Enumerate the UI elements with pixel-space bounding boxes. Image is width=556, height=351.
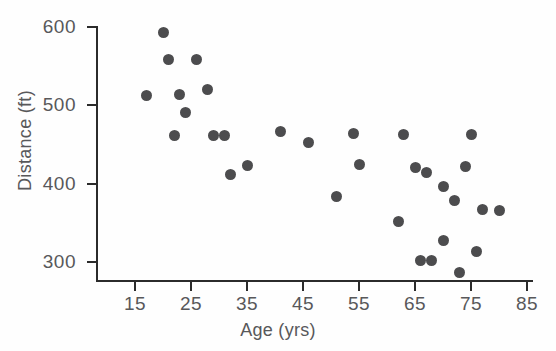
y-axis-label: Distance (ft) bbox=[15, 71, 36, 211]
x-axis-label: Age (yrs) bbox=[0, 320, 556, 341]
x-tick-label: 45 bbox=[280, 294, 326, 313]
data-point bbox=[191, 54, 202, 65]
x-axis-line bbox=[96, 280, 533, 282]
x-tick-mark bbox=[190, 282, 192, 291]
data-point bbox=[331, 191, 342, 202]
x-tick-mark bbox=[134, 282, 136, 291]
y-tick-mark bbox=[87, 261, 96, 263]
x-tick-mark bbox=[414, 282, 416, 291]
x-tick-label: 65 bbox=[392, 294, 438, 313]
data-point bbox=[163, 54, 174, 65]
data-point bbox=[449, 195, 460, 206]
data-point bbox=[169, 130, 180, 141]
data-point bbox=[180, 107, 191, 118]
data-point bbox=[393, 216, 404, 227]
x-tick-label: 75 bbox=[448, 294, 494, 313]
data-point bbox=[354, 159, 365, 170]
y-tick-mark bbox=[87, 26, 96, 28]
x-tick-label: 35 bbox=[224, 294, 270, 313]
x-tick-mark bbox=[470, 282, 472, 291]
y-tick-label: 400 bbox=[30, 174, 76, 193]
y-tick-label: 500 bbox=[30, 95, 76, 114]
data-point bbox=[426, 255, 437, 266]
y-tick-mark bbox=[87, 183, 96, 185]
data-point bbox=[219, 130, 230, 141]
data-point bbox=[466, 129, 477, 140]
data-point bbox=[398, 129, 409, 140]
scatter-plot-figure: 300400500600 1525354555657585 Age (yrs) … bbox=[0, 0, 556, 351]
data-point bbox=[421, 167, 432, 178]
data-point bbox=[348, 128, 359, 139]
data-point bbox=[494, 205, 505, 216]
data-point bbox=[438, 181, 449, 192]
data-point bbox=[225, 169, 236, 180]
data-point bbox=[208, 130, 219, 141]
data-point bbox=[202, 84, 213, 95]
y-tick-label: 300 bbox=[30, 252, 76, 271]
data-point bbox=[275, 126, 286, 137]
y-axis-line bbox=[96, 26, 98, 282]
x-tick-mark bbox=[526, 282, 528, 291]
y-tick-label: 600 bbox=[30, 17, 76, 36]
data-point bbox=[460, 161, 471, 172]
x-tick-mark bbox=[358, 282, 360, 291]
y-tick-mark bbox=[87, 104, 96, 106]
x-tick-mark bbox=[302, 282, 304, 291]
x-tick-label: 85 bbox=[504, 294, 550, 313]
data-point bbox=[477, 204, 488, 215]
x-tick-label: 25 bbox=[168, 294, 214, 313]
x-tick-mark bbox=[246, 282, 248, 291]
x-tick-label: 55 bbox=[336, 294, 382, 313]
data-point bbox=[303, 137, 314, 148]
data-point bbox=[438, 235, 449, 246]
x-tick-label: 15 bbox=[112, 294, 158, 313]
data-point bbox=[141, 90, 152, 101]
data-point bbox=[174, 89, 185, 100]
data-point bbox=[410, 162, 421, 173]
data-point bbox=[471, 246, 482, 257]
data-point bbox=[454, 267, 465, 278]
data-point bbox=[242, 160, 253, 171]
data-point bbox=[158, 27, 169, 38]
data-point bbox=[415, 255, 426, 266]
